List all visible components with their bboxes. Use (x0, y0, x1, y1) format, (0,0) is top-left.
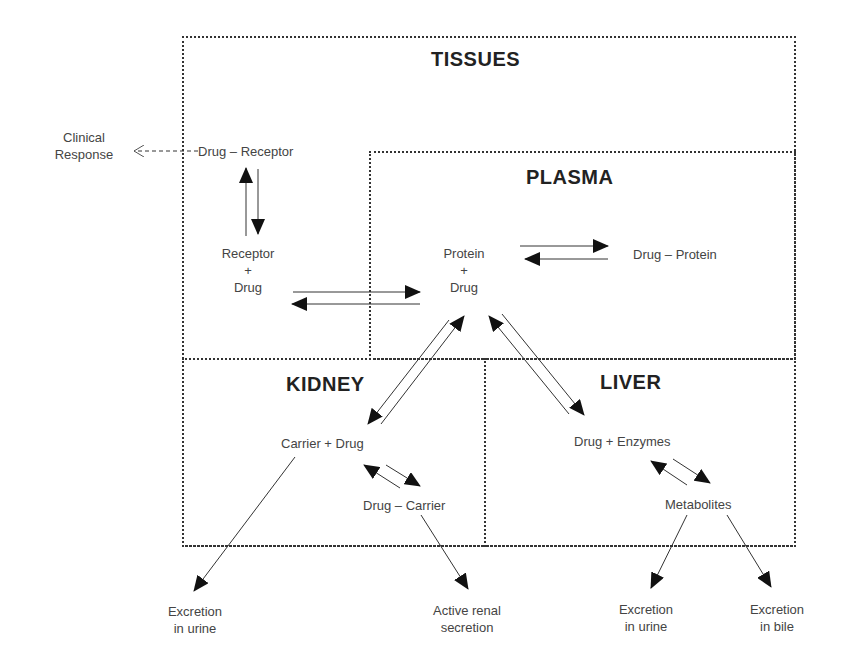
to-liver-arrow (502, 314, 584, 415)
to-kidney-arrow (368, 320, 449, 424)
carrier-release-arrow (364, 465, 400, 488)
bile-arrow (727, 515, 771, 587)
active-secretion-arrow (421, 515, 468, 589)
to-plasma-from-liver-arrow (489, 316, 569, 414)
arrows-layer (0, 0, 845, 671)
kidney-urine-arrow (194, 457, 295, 591)
to-plasma-from-kidney-arrow (381, 316, 464, 424)
liver-urine-arrow (651, 515, 687, 588)
